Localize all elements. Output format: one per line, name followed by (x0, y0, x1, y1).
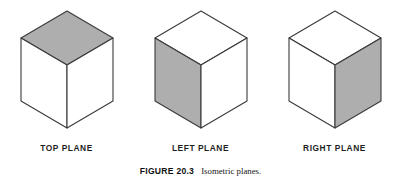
isometric-cube-left-plane-svg (151, 8, 251, 132)
figure-caption: FIGURE 20.3Isometric planes. (0, 160, 401, 176)
cube-left-plane (134, 0, 267, 136)
label-cell-right-plane: RIGHT PLANE (268, 137, 401, 155)
isometric-cube-right-plane-svg (285, 8, 385, 132)
plane-labels-row: TOP PLANE LEFT PLANE RIGHT PLANE (0, 138, 401, 154)
isometric-cube-top-plane-svg (17, 8, 117, 132)
figure-caption-text: Isometric planes. (201, 166, 261, 176)
plane-label-right: RIGHT PLANE (303, 143, 366, 153)
isometric-planes-figure: TOP PLANE LEFT PLANE RIGHT PLANE FIGURE … (0, 0, 401, 180)
label-cell-left-plane: LEFT PLANE (134, 137, 267, 155)
cube-right-plane (268, 0, 401, 136)
cube-top-plane (0, 0, 133, 136)
figure-caption-number: FIGURE 20.3 (140, 166, 194, 176)
plane-label-left: LEFT PLANE (172, 143, 229, 153)
plane-label-top: TOP PLANE (40, 143, 93, 153)
cubes-row (0, 0, 401, 136)
label-cell-top-plane: TOP PLANE (0, 137, 133, 155)
